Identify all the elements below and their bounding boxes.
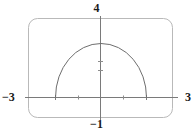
- window-xmin-label: −3: [2, 91, 15, 103]
- graph-canvas: [0, 0, 193, 135]
- graph-screenshot: 4 −1 −3 3: [0, 0, 193, 135]
- window-xmax-label: 3: [185, 91, 191, 103]
- window-ymax-label: 4: [0, 2, 193, 14]
- window-ymin-label: −1: [0, 118, 193, 130]
